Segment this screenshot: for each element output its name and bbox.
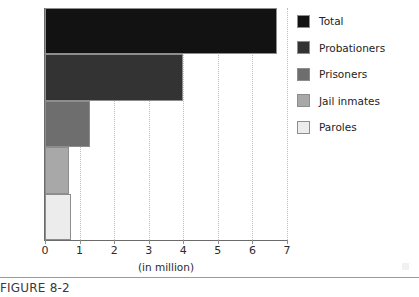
legend-swatch-icon: [297, 68, 310, 81]
y-axis-line: [44, 8, 45, 241]
tick-label-5: 5: [208, 244, 228, 257]
tick-label-1: 1: [70, 244, 90, 257]
legend-item-jail-inmates: Jail inmates: [297, 88, 415, 114]
legend-swatch-icon: [297, 121, 310, 134]
x-axis-label: (in million): [45, 261, 287, 273]
gridline-7: [287, 8, 289, 240]
legend-swatch-icon: [297, 41, 310, 54]
figure-caption: FIGURE 8-2: [0, 281, 70, 297]
caption-divider: [0, 277, 419, 278]
bar-paroles: [45, 194, 71, 240]
legend-swatch-icon: [297, 15, 310, 28]
bar-prisoners: [45, 101, 90, 147]
legend-item-probationers: Probationers: [297, 35, 415, 61]
tick-label-4: 4: [173, 244, 193, 257]
legend-item-total: Total: [297, 8, 415, 34]
chart-plot-area: [45, 8, 287, 240]
bar-jail-inmates: [45, 147, 69, 193]
legend-label: Paroles: [319, 121, 357, 133]
legend-label: Jail inmates: [319, 95, 380, 107]
legend-label: Total: [319, 15, 344, 27]
bar-probationers: [45, 54, 183, 100]
legend-item-paroles: Paroles: [297, 114, 415, 140]
legend-item-prisoners: Prisoners: [297, 61, 415, 87]
legend-label: Prisoners: [319, 68, 367, 80]
x-axis-line: [44, 240, 288, 241]
legend-swatch-icon: [297, 94, 310, 107]
tick-label-0: 0: [35, 244, 55, 257]
corner-mark: [402, 263, 409, 270]
legend-label: Probationers: [319, 42, 385, 54]
tick-label-2: 2: [104, 244, 124, 257]
tick-label-3: 3: [139, 244, 159, 257]
chart-legend: TotalProbationersPrisonersJail inmatesPa…: [297, 8, 415, 141]
bar-total: [45, 8, 277, 54]
figure-container: 01234567 (in million) TotalProbationersP…: [0, 0, 419, 297]
tick-label-6: 6: [242, 244, 262, 257]
tick-label-7: 7: [277, 244, 297, 257]
